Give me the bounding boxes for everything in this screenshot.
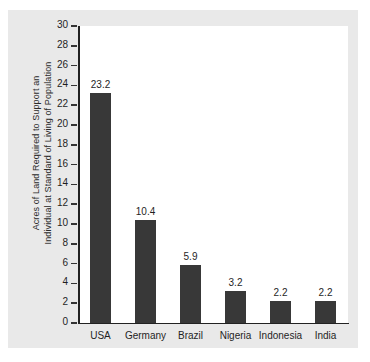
bar (180, 265, 201, 323)
y-tick-mark (71, 322, 77, 324)
y-tick-mark (71, 223, 77, 225)
y-tick-label: 20 (46, 118, 68, 129)
y-tick-label: 12 (46, 197, 68, 208)
y-tick-label: 24 (46, 78, 68, 89)
y-tick-mark (71, 25, 77, 27)
y-tick-label: 16 (46, 158, 68, 169)
y-tick-label: 6 (46, 257, 68, 268)
bar-value-label: 3.2 (213, 277, 259, 288)
y-tick-mark (71, 283, 77, 285)
y-tick-mark (71, 302, 77, 304)
y-tick-label: 0 (46, 316, 68, 327)
bar-value-label: 23.2 (78, 79, 124, 90)
y-tick-label: 4 (46, 276, 68, 287)
y-tick-mark (71, 203, 77, 205)
bar-value-label: 2.2 (258, 287, 304, 298)
y-tick-mark (71, 263, 77, 265)
y-tick-mark (71, 45, 77, 47)
bar (90, 93, 111, 323)
bar (135, 220, 156, 323)
x-axis-line (78, 323, 349, 325)
y-tick-mark (71, 85, 77, 87)
bar-value-label: 10.4 (123, 206, 169, 217)
y-tick-label: 22 (46, 98, 68, 109)
bar-value-label: 5.9 (168, 251, 214, 262)
bar (270, 301, 291, 323)
y-tick-label: 28 (46, 39, 68, 50)
y-tick-label: 18 (46, 138, 68, 149)
bar (315, 301, 336, 323)
chart-card: Acres of Land Required to Support an Ind… (8, 10, 358, 348)
bar-value-label: 2.2 (303, 287, 349, 298)
y-tick-label: 26 (46, 59, 68, 70)
y-tick-mark (71, 124, 77, 126)
y-tick-mark (71, 144, 77, 146)
y-axis-title-line-1: Acres of Land Required to Support an (30, 28, 42, 278)
y-tick-mark (71, 184, 77, 186)
y-tick-mark (71, 243, 77, 245)
x-axis-label: India (295, 330, 357, 341)
y-tick-mark (71, 104, 77, 106)
y-tick-mark (71, 164, 77, 166)
y-tick-label: 14 (46, 177, 68, 188)
y-tick-label: 8 (46, 237, 68, 248)
bar (225, 291, 246, 323)
y-tick-label: 10 (46, 217, 68, 228)
y-tick-label: 30 (46, 19, 68, 30)
y-tick-mark (71, 65, 77, 67)
y-tick-label: 2 (46, 296, 68, 307)
y-axis-line (78, 26, 80, 324)
